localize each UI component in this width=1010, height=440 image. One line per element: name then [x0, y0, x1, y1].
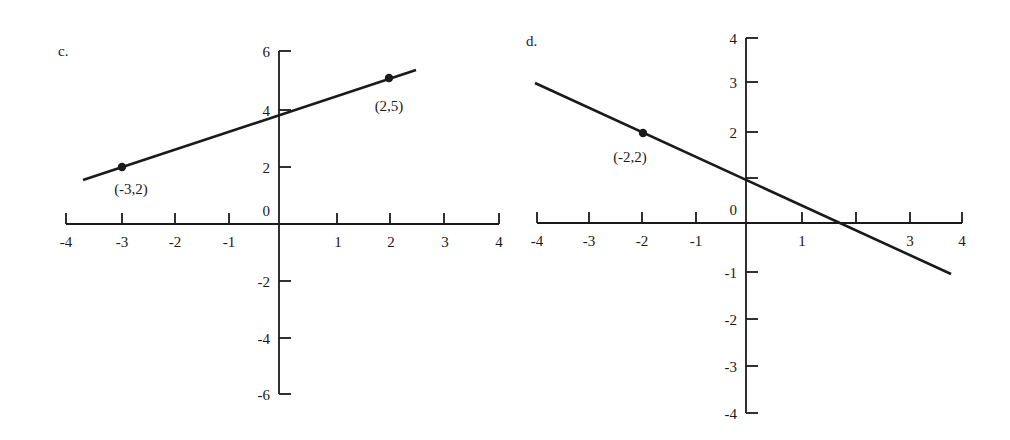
chart-d-points [639, 129, 647, 137]
chart-c-point-2 [385, 74, 393, 82]
chart-c-x-label: -4 [60, 234, 73, 250]
chart-d-y-label: 0 [730, 202, 738, 218]
chart-d-x-label: 4 [958, 233, 966, 249]
chart-d-point-1 [639, 129, 647, 137]
chart-d-x-label: -3 [583, 233, 596, 249]
chart-c-y-label: 4 [263, 103, 271, 119]
chart-c-x-label: 1 [334, 234, 342, 250]
chart-c-point-1-label: (-3,2) [114, 181, 148, 198]
chart-d-y-label: 4 [730, 31, 738, 47]
chart-c-y-label: 2 [263, 160, 271, 176]
chart-d [535, 38, 962, 413]
chart-c-x-label: 2 [387, 234, 395, 250]
chart-c-panel-label: c. [58, 43, 68, 59]
chart-d-x-label: -4 [531, 233, 544, 249]
chart-d-x-label: -2 [636, 233, 649, 249]
chart-d-point-1-label: (-2,2) [613, 149, 647, 166]
chart-c-x-label: 3 [441, 234, 449, 250]
chart-c-y-label: 0 [263, 203, 271, 219]
chart-c-x-label: -3 [116, 234, 129, 250]
chart-c-x-label: -2 [169, 234, 182, 250]
chart-d-y-label: 3 [730, 75, 738, 91]
chart-d-line [535, 83, 951, 274]
chart-d-x-label: -1 [690, 233, 703, 249]
chart-c [66, 51, 499, 394]
chart-c-y-ticks [279, 51, 291, 394]
chart-d-y-label: -1 [725, 265, 738, 281]
chart-c-y-label: -4 [258, 331, 271, 347]
chart-d-panel-label: d. [526, 33, 537, 49]
chart-c-labels: c. -4 -3 -2 -1 1 2 3 4 6 4 2 0 -2 -4 -6 … [58, 43, 503, 403]
chart-c-x-label: -1 [223, 234, 236, 250]
chart-c-y-label: -6 [258, 387, 271, 403]
figure: c. -4 -3 -2 -1 1 2 3 4 6 4 2 0 -2 -4 -6 … [0, 0, 1010, 440]
chart-d-x-ticks [537, 212, 962, 223]
chart-d-x-label: 1 [798, 233, 806, 249]
chart-d-y-label: -4 [725, 406, 738, 422]
chart-c-y-label: -2 [258, 274, 271, 290]
chart-c-point-2-label: (2,5) [375, 98, 404, 115]
chart-c-x-label: 4 [495, 234, 503, 250]
chart-d-y-label: -2 [725, 312, 738, 328]
chart-c-x-ticks [66, 213, 499, 224]
chart-d-y-label: 2 [730, 125, 738, 141]
chart-d-y-ticks [746, 38, 758, 413]
chart-d-x-label: 3 [906, 233, 914, 249]
chart-c-point-1 [118, 163, 126, 171]
chart-d-y-label: -3 [725, 359, 738, 375]
chart-c-y-label: 6 [263, 44, 271, 60]
chart-c-line [83, 70, 416, 180]
